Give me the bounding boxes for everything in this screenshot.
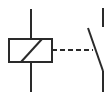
relay-symbol-svg <box>0 0 109 96</box>
switch-blade <box>88 28 103 71</box>
coil-diagonal <box>21 39 42 62</box>
relay-diagram <box>0 0 109 96</box>
